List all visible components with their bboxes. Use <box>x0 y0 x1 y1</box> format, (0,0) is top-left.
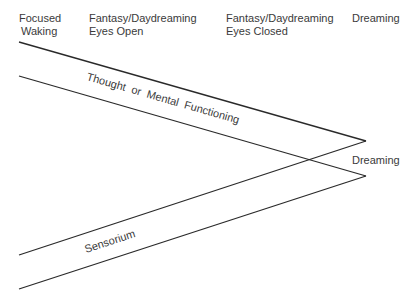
sensorium-band-upper-line <box>19 141 366 255</box>
sensorium-band-lower-line <box>19 176 366 289</box>
convergence-label-dreaming: Dreaming <box>352 154 400 166</box>
diagram-canvas: Thought or Mental Functioning Sensorium … <box>0 0 411 307</box>
